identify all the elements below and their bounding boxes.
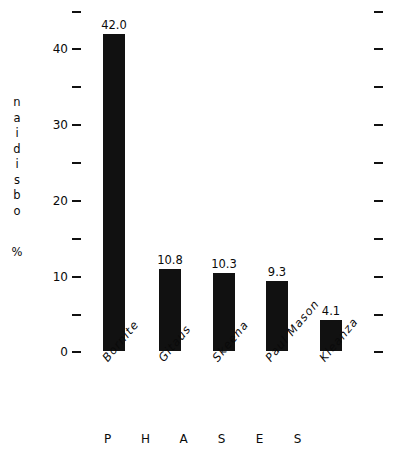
bar-value-bornite: 42.0 <box>89 19 139 31</box>
x-axis-title-letter: H <box>127 432 165 446</box>
x-axis-title-letter: S <box>279 432 317 446</box>
bar-value-gitaus: 10.8 <box>145 254 195 266</box>
bar-value-skeena: 10.3 <box>199 258 249 270</box>
x-axis-title-letter: S <box>203 432 241 446</box>
x-axis-title-letter: P <box>89 432 127 446</box>
x-axis-title-letter: E <box>241 432 279 446</box>
plot-area: 42.0 10.8 10.3 9.3 4.1 <box>0 0 405 360</box>
bar-value-paul-mason: 9.3 <box>254 266 300 278</box>
bar-bornite[interactable] <box>103 34 125 351</box>
bar-chart: n a i d i s b o % 40 30 20 10 0 <box>0 0 405 458</box>
x-axis-title: PHASES <box>0 432 405 446</box>
x-axis-title-letter: A <box>165 432 203 446</box>
